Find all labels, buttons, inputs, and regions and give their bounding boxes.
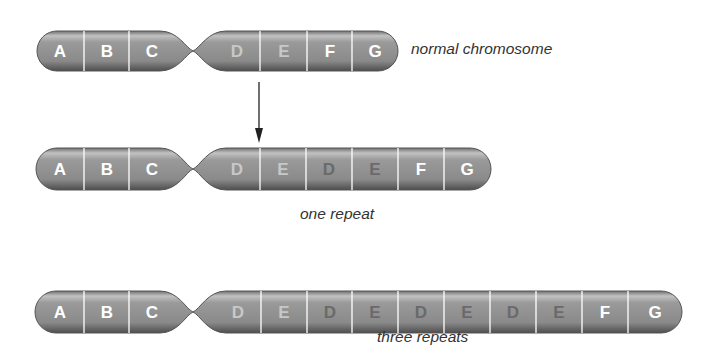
segment-label: F: [416, 160, 426, 179]
segment-label: A: [54, 160, 66, 179]
segment-label: F: [325, 42, 335, 61]
chromosome-diagram: ABCDEFG ABCDEDEFG ABCDEDEDEDEFG: [0, 0, 711, 362]
segment-label: A: [54, 42, 66, 61]
segment-label: D: [507, 303, 519, 322]
chromosome-normal: ABCDEFG: [37, 31, 398, 71]
segment-label: E: [278, 42, 289, 61]
segment-label: D: [323, 160, 335, 179]
segment-label: E: [369, 303, 380, 322]
segment-label: F: [600, 303, 610, 322]
segment-label: D: [231, 160, 243, 179]
segment-label: G: [368, 42, 381, 61]
chromosome-body: [35, 291, 682, 333]
segment-label: E: [461, 303, 472, 322]
segment-label: G: [460, 160, 473, 179]
caption-three-repeats: three repeats: [377, 328, 468, 346]
segment-label: C: [146, 303, 158, 322]
down-arrow-icon: [255, 82, 263, 143]
segment-label: B: [101, 160, 113, 179]
caption-normal-chromosome: normal chromosome: [411, 40, 552, 58]
segment-label: E: [278, 303, 289, 322]
caption-one-repeat: one repeat: [300, 205, 374, 223]
segment-label: G: [648, 303, 661, 322]
segment-label: C: [146, 160, 158, 179]
chromosome-one-repeat: ABCDEDEFG: [36, 148, 491, 190]
segment-label: B: [101, 42, 113, 61]
chromosome-body: [37, 31, 398, 71]
segment-label: C: [146, 42, 158, 61]
segment-label: A: [54, 303, 66, 322]
segment-label: D: [232, 303, 244, 322]
chromosome-three-repeats: ABCDEDEDEDEFG: [35, 291, 682, 333]
segment-label: B: [101, 303, 113, 322]
segment-label: E: [277, 160, 288, 179]
segment-label: D: [324, 303, 336, 322]
segment-label: D: [415, 303, 427, 322]
segment-label: E: [369, 160, 380, 179]
segment-label: E: [553, 303, 564, 322]
segment-label: D: [231, 42, 243, 61]
